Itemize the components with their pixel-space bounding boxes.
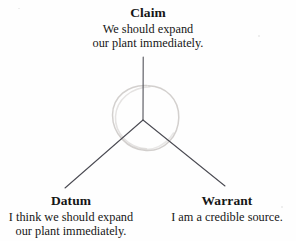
branch-lines xyxy=(65,57,225,188)
node-datum: Datum I think we should expand our plant… xyxy=(0,193,144,239)
node-warrant: Warrant I am a credible source. xyxy=(158,193,296,224)
node-claim: Claim We should expand our plant immedia… xyxy=(48,5,248,51)
warrant-branch-line xyxy=(143,120,225,186)
node-datum-body-line-1: I think we should expand xyxy=(0,210,144,225)
node-datum-heading: Datum xyxy=(0,193,144,209)
node-warrant-body-line-1: I am a credible source. xyxy=(158,210,296,225)
diagram-canvas: Claim We should expand our plant immedia… xyxy=(0,0,296,241)
node-claim-heading: Claim xyxy=(48,5,248,21)
node-claim-body-line-1: We should expand xyxy=(48,22,248,37)
node-claim-body-line-2: our plant immediately. xyxy=(48,36,248,51)
datum-branch-line xyxy=(65,120,143,188)
node-warrant-heading: Warrant xyxy=(158,193,296,209)
node-datum-body-line-2: our plant immediately. xyxy=(0,224,144,239)
